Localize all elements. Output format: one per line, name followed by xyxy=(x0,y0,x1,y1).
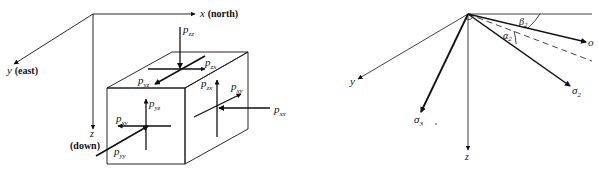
sigma3-vector xyxy=(421,14,468,112)
principal-vectors xyxy=(421,14,586,112)
stray-mark xyxy=(435,123,437,125)
pyz-top-label: pyz xyxy=(137,74,150,89)
coordinate-axes xyxy=(14,14,195,129)
pxy-side-label: pxy xyxy=(230,80,244,95)
y-axis-right-label: y xyxy=(349,75,355,87)
pzx-top-label: pzx xyxy=(204,56,217,71)
stress-cube-diagram: x (north) y (east) z (down) pzz pzx pyz … xyxy=(6,7,287,164)
sigma3-label: σ3 xyxy=(414,113,423,128)
z-axis-right-label: z xyxy=(464,151,469,162)
x-axis-label: x (north) xyxy=(199,7,238,20)
pzz-label: pzz xyxy=(182,23,194,38)
pzx-side-label: pzx xyxy=(200,77,213,92)
y-axis xyxy=(14,14,93,64)
dashed-projection-line xyxy=(468,14,592,61)
y-axis-label: y (east) xyxy=(6,64,38,77)
sigma2-label: σ2 xyxy=(572,84,581,99)
alpha2-label: α2 xyxy=(503,30,512,43)
pyz-front-label: pyz xyxy=(148,97,161,112)
z-axis-note: (down) xyxy=(70,140,100,152)
beta2-arc xyxy=(527,14,540,29)
o-label: o xyxy=(588,36,594,48)
alpha2-arc xyxy=(514,31,516,44)
diagram-canvas: x (north) y (east) z (down) pzz pzx pyz … xyxy=(0,0,599,178)
z-axis-label: z xyxy=(89,128,94,139)
principal-stress-diagram: β2 α2 o σ2 σ3 y z xyxy=(349,14,594,162)
pxy-front-label: pxy xyxy=(115,112,129,127)
pxx-label: pxx xyxy=(273,103,287,118)
top-face-stresses xyxy=(148,27,205,84)
pyy-label: pyy xyxy=(113,145,127,160)
cube-top-face xyxy=(107,52,248,88)
